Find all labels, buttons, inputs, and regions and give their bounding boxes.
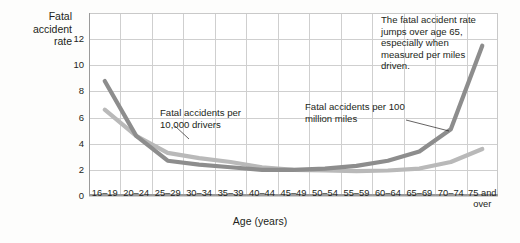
annotation-leader-lines — [0, 0, 520, 243]
fatal-accident-rate-chart: Fatal accident rate 024681012 16–1920–24… — [0, 0, 520, 243]
leader-line-drivers — [175, 126, 189, 139]
leader-line-miles — [406, 120, 449, 131]
